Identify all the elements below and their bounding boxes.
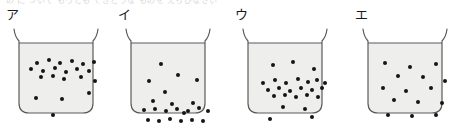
beaker-label-b: イ (118, 7, 131, 22)
particle-dot (179, 119, 183, 123)
beaker-c-illustration (241, 27, 329, 119)
cut-off-header-text-content: の に ついて もっとも てきとうな ものを えらびなさい (6, 0, 218, 5)
beaker-b-illustration (124, 27, 212, 119)
beaker-option-b[interactable]: イ (114, 7, 226, 125)
beaker-option-a[interactable]: ア (2, 7, 114, 125)
beaker-a-illustration (12, 27, 100, 119)
beaker-label-a: ア (6, 7, 19, 22)
particle-dot (157, 119, 161, 123)
beaker-a-glass-icon (12, 27, 100, 119)
beaker-c-glass-icon (241, 27, 329, 119)
beaker-option-d[interactable]: エ (351, 7, 458, 125)
beaker-label-d: エ (355, 7, 368, 22)
beaker-d-illustration (361, 27, 449, 119)
cut-off-header-text: の に ついて もっとも てきとうな ものを えらびなさい (0, 0, 458, 7)
beaker-option-c[interactable]: ウ (231, 7, 343, 125)
beaker-b-glass-icon (124, 27, 212, 119)
beaker-label-c: ウ (235, 7, 248, 22)
particle-dot (201, 119, 205, 123)
beaker-comparison-figure: ア イ ウ (0, 7, 458, 125)
beaker-d-glass-icon (361, 27, 449, 119)
